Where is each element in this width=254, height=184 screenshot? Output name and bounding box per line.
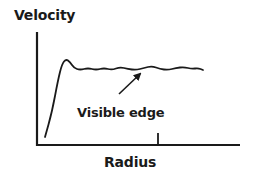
annotation-arrow	[119, 74, 140, 94]
velocity-curve	[45, 60, 203, 137]
chart-canvas	[0, 0, 254, 184]
